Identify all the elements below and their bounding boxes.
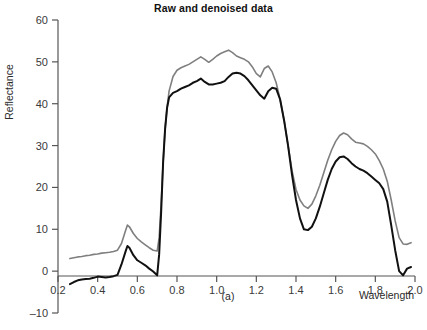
- x-tick-label: 1.4: [288, 284, 303, 296]
- x-tick-label: 0.4: [90, 284, 105, 296]
- panel-caption: (a): [222, 290, 235, 302]
- y-tick-label: 0: [42, 265, 48, 277]
- data-series-group: [70, 50, 411, 284]
- x-tick-label: 1.6: [328, 284, 343, 296]
- x-tick-label: 0.6: [130, 284, 145, 296]
- y-axis-title: Reflectance: [3, 64, 15, 120]
- x-tick-label: 0.8: [169, 284, 184, 296]
- y-axis: –100102030405060: [30, 14, 58, 319]
- x-axis-title: Wavelength: [359, 289, 414, 301]
- y-tick-label: 30: [36, 140, 48, 152]
- line-chart: –100102030405060 0.20.40.60.81.01.21.41.…: [0, 0, 427, 330]
- y-tick-label: –10: [30, 307, 48, 319]
- y-axis-tick-labels: –100102030405060: [30, 14, 48, 319]
- y-tick-label: 40: [36, 98, 48, 110]
- figure-panel: Raw and denoised data –100102030405060 0…: [0, 0, 427, 330]
- x-tick-label: 1.2: [249, 284, 264, 296]
- y-tick-label: 20: [36, 181, 48, 193]
- x-tick-label: 0.2: [50, 284, 65, 296]
- y-axis-ticks: [52, 20, 58, 313]
- y-tick-label: 50: [36, 56, 48, 68]
- y-tick-label: 60: [36, 14, 48, 26]
- series-line-raw: [70, 50, 411, 258]
- series-line-denoised: [70, 73, 411, 284]
- y-tick-label: 10: [36, 223, 48, 235]
